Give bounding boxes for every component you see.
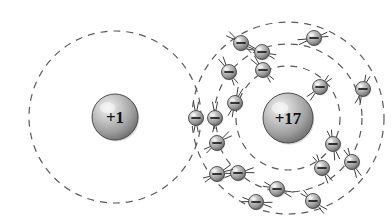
diagram-canvas: +1+17 [0,0,391,224]
hcl-bond-diagram: +1+17 [0,0,391,224]
